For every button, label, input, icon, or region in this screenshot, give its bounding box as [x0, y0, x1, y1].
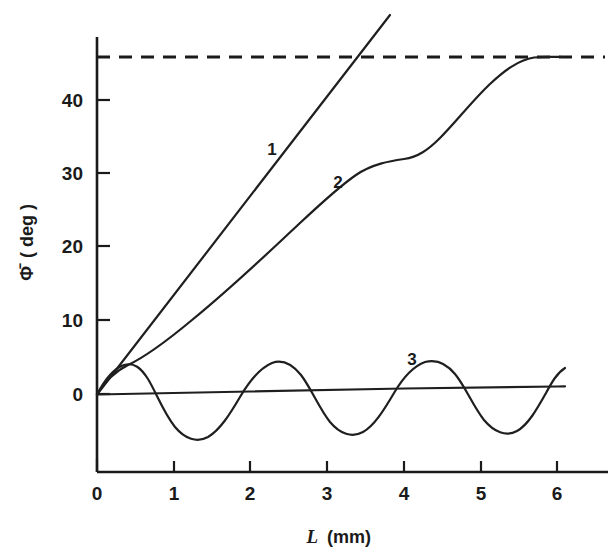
y-axis-title-unit: ( deg ) — [17, 204, 37, 258]
curve-2-label: 2 — [333, 173, 342, 192]
y-tick-label-20: 20 — [62, 236, 83, 257]
curve-1-line — [97, 15, 390, 395]
y-tick-label-10: 10 — [62, 310, 83, 331]
x-tick-label-5: 5 — [476, 483, 487, 504]
curve-2-line — [97, 57, 562, 395]
x-tick-label-1: 1 — [169, 483, 180, 504]
y-axis-title-symbol: Φ̄ — [17, 263, 37, 281]
x-axis-title-unit: (mm) — [327, 527, 371, 547]
y-tick-label-0: 0 — [72, 384, 83, 405]
x-axis-title-symbol: L — [305, 526, 318, 547]
chart-figure: 40 30 20 10 0 0 1 2 3 4 5 6 L (mm) Φ̄ ( … — [0, 0, 614, 557]
y-tick-label-30: 30 — [62, 163, 83, 184]
x-tick-label-3: 3 — [322, 483, 333, 504]
x-tick-labels: 0 1 2 3 4 5 6 — [92, 483, 563, 504]
x-tick-label-4: 4 — [399, 483, 410, 504]
y-tick-label-40: 40 — [62, 90, 83, 111]
phi-vs-length-plot: 40 30 20 10 0 0 1 2 3 4 5 6 L (mm) Φ̄ ( … — [0, 0, 614, 557]
x-tick-label-0: 0 — [92, 483, 103, 504]
x-tick-marks — [97, 459, 557, 472]
y-axis-title: Φ̄ ( deg ) — [17, 204, 37, 281]
curve-3-label: 3 — [407, 350, 416, 369]
x-tick-label-6: 6 — [552, 483, 563, 504]
y-tick-labels: 40 30 20 10 0 — [62, 90, 83, 405]
curve-1-label: 1 — [267, 140, 276, 159]
x-tick-label-2: 2 — [245, 483, 256, 504]
x-axis-title: L (mm) — [305, 526, 371, 547]
curve-4-baseline — [97, 386, 565, 394]
y-tick-marks — [97, 100, 110, 394]
curve-3-oscillation — [97, 361, 565, 440]
